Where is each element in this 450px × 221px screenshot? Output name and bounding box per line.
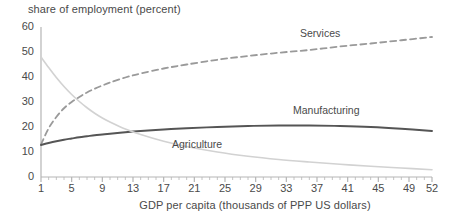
- y-tick-label: 40: [8, 71, 34, 82]
- plot-area: 0102030405060 1591317212529333741454952 …: [0, 0, 450, 221]
- series-line-agriculture: [41, 57, 432, 170]
- x-tick-label: 33: [274, 183, 298, 194]
- x-tick-label: 37: [305, 183, 329, 194]
- x-tick-label: 5: [60, 183, 84, 194]
- series-paths: [41, 37, 432, 170]
- y-tick-label: 50: [8, 46, 34, 57]
- y-tick-label: 0: [8, 171, 34, 182]
- y-tick-label: 20: [8, 121, 34, 132]
- x-tick-label: 49: [397, 183, 421, 194]
- x-tick-label: 45: [366, 183, 390, 194]
- annotation-agriculture: Agriculture: [172, 138, 222, 150]
- employment-share-chart: share of employment (percent) 0102030405…: [0, 0, 450, 221]
- x-tick-label: 29: [244, 183, 268, 194]
- x-tick-label: 13: [121, 183, 145, 194]
- y-tick-label: 10: [8, 146, 34, 157]
- x-tick-label: 1: [29, 183, 53, 194]
- y-tick-label: 60: [8, 21, 34, 32]
- y-tick-label: 30: [8, 96, 34, 107]
- x-tick-label: 25: [213, 183, 237, 194]
- series-line-manufacturing: [41, 125, 432, 145]
- annotation-manufacturing: Manufacturing: [293, 104, 360, 116]
- x-axis-title: GDP per capita (thousands of PPP US doll…: [0, 199, 450, 211]
- x-tick-label: 41: [336, 183, 360, 194]
- x-tick-label: 21: [182, 183, 206, 194]
- series-line-services: [41, 37, 432, 145]
- annotation-services: Services: [300, 27, 340, 39]
- x-tick-label: 9: [90, 183, 114, 194]
- x-tick-label: 17: [152, 183, 176, 194]
- x-tick-label: 52: [420, 183, 444, 194]
